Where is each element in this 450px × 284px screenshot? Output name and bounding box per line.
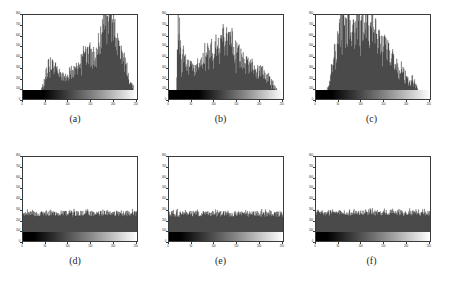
y-tick-label: 800 bbox=[16, 13, 20, 16]
x-tick-label: 200 bbox=[111, 104, 115, 107]
y-tick bbox=[313, 14, 315, 15]
y-tick-label: 700 bbox=[16, 165, 20, 168]
y-tick-label: 700 bbox=[16, 23, 20, 26]
panel-e: 0100200300400500600700800 05010015020025… bbox=[168, 156, 284, 242]
panel-a-x-axis: 050100150200250 bbox=[22, 100, 138, 112]
y-tick bbox=[166, 221, 168, 222]
x-tick-label: 250 bbox=[280, 246, 284, 249]
y-tick-label: 300 bbox=[16, 66, 20, 69]
figure-panel-grid: 0100200300400500600700800 05010015020025… bbox=[0, 0, 450, 284]
panel-e-y-axis: 0100200300400500600700800 bbox=[148, 156, 168, 242]
x-tick-label: 200 bbox=[404, 104, 408, 107]
x-tick-label: 200 bbox=[257, 246, 261, 249]
panel-e-caption: (e) bbox=[146, 255, 295, 266]
y-tick-label: 500 bbox=[162, 45, 166, 48]
y-tick-label: 0 bbox=[165, 241, 166, 244]
x-tick-label: 200 bbox=[257, 104, 261, 107]
panel-a-colorbar bbox=[23, 90, 137, 99]
y-tick-label: 800 bbox=[309, 13, 313, 16]
y-tick bbox=[166, 36, 168, 37]
panel-f-axes bbox=[315, 156, 431, 242]
x-tick-label: 100 bbox=[358, 246, 362, 249]
y-tick bbox=[20, 36, 22, 37]
y-tick bbox=[20, 221, 22, 222]
y-tick-label: 600 bbox=[309, 176, 313, 179]
y-tick bbox=[313, 178, 315, 179]
y-tick bbox=[313, 221, 315, 222]
panel-d-y-axis: 0100200300400500600700800 bbox=[2, 156, 22, 242]
y-tick bbox=[313, 231, 315, 232]
x-tick-label: 100 bbox=[65, 246, 69, 249]
y-tick-label: 200 bbox=[16, 77, 20, 80]
y-tick bbox=[166, 199, 168, 200]
panel-cell-e: 0100200300400500600700800 05010015020025… bbox=[150, 142, 295, 284]
y-tick-label: 200 bbox=[309, 77, 313, 80]
x-tick-label: 250 bbox=[427, 104, 431, 107]
y-tick bbox=[20, 25, 22, 26]
panel-b-y-axis: 0100200300400500600700800 bbox=[148, 14, 168, 100]
y-tick-label: 500 bbox=[162, 187, 166, 190]
x-tick-label: 0 bbox=[21, 104, 22, 107]
x-tick-label: 250 bbox=[134, 104, 138, 107]
y-tick-label: 100 bbox=[16, 88, 20, 91]
y-tick bbox=[166, 178, 168, 179]
x-tick-label: 0 bbox=[167, 246, 168, 249]
y-tick-label: 0 bbox=[312, 241, 313, 244]
panel-b-caption: (b) bbox=[146, 113, 295, 124]
y-tick bbox=[20, 178, 22, 179]
panel-cell-f: 0100200300400500600700800 05010015020025… bbox=[295, 142, 450, 284]
y-tick bbox=[313, 36, 315, 37]
panel-c-x-axis: 050100150200250 bbox=[315, 100, 431, 112]
y-tick-label: 800 bbox=[309, 155, 313, 158]
panel-a-plot bbox=[23, 15, 137, 99]
x-tick-label: 50 bbox=[43, 104, 46, 107]
y-tick-label: 100 bbox=[309, 230, 313, 233]
y-tick-label: 600 bbox=[309, 34, 313, 37]
y-tick bbox=[20, 57, 22, 58]
y-tick-label: 400 bbox=[309, 198, 313, 201]
y-tick-label: 500 bbox=[309, 187, 313, 190]
y-tick bbox=[166, 231, 168, 232]
panel-e-colorbar bbox=[169, 232, 283, 241]
panel-f: 0100200300400500600700800 05010015020025… bbox=[315, 156, 431, 242]
y-tick bbox=[313, 156, 315, 157]
x-tick-label: 50 bbox=[189, 246, 192, 249]
panel-a: 0100200300400500600700800 05010015020025… bbox=[22, 14, 138, 100]
y-tick bbox=[313, 167, 315, 168]
x-tick-label: 100 bbox=[211, 104, 215, 107]
y-tick-label: 300 bbox=[162, 66, 166, 69]
x-tick-label: 0 bbox=[167, 104, 168, 107]
y-tick bbox=[20, 89, 22, 90]
y-tick bbox=[313, 25, 315, 26]
panel-cell-a: 0100200300400500600700800 05010015020025… bbox=[0, 0, 150, 142]
y-tick-label: 400 bbox=[309, 56, 313, 59]
x-tick-label: 100 bbox=[358, 104, 362, 107]
y-tick bbox=[313, 79, 315, 80]
y-tick bbox=[20, 14, 22, 15]
y-tick-label: 700 bbox=[309, 165, 313, 168]
y-tick bbox=[20, 210, 22, 211]
panel-b-colorbar bbox=[169, 90, 283, 99]
y-tick bbox=[313, 46, 315, 47]
y-tick bbox=[313, 68, 315, 69]
y-tick-label: 400 bbox=[162, 198, 166, 201]
y-tick-label: 0 bbox=[19, 99, 20, 102]
x-tick-label: 0 bbox=[314, 246, 315, 249]
y-tick-label: 200 bbox=[16, 219, 20, 222]
y-tick-label: 100 bbox=[16, 230, 20, 233]
panel-f-caption: (f) bbox=[293, 255, 450, 266]
x-tick-label: 50 bbox=[189, 104, 192, 107]
y-tick-label: 200 bbox=[309, 219, 313, 222]
panel-f-x-axis: 050100150200250 bbox=[315, 242, 431, 254]
y-tick bbox=[166, 167, 168, 168]
y-tick-label: 300 bbox=[16, 208, 20, 211]
panel-a-axes bbox=[22, 14, 138, 100]
y-tick-label: 300 bbox=[162, 208, 166, 211]
panel-d-colorbar bbox=[23, 232, 137, 241]
x-tick-label: 50 bbox=[336, 246, 339, 249]
y-tick bbox=[313, 210, 315, 211]
y-tick bbox=[166, 68, 168, 69]
x-tick-label: 150 bbox=[234, 104, 238, 107]
y-tick bbox=[313, 89, 315, 90]
panel-a-caption: (a) bbox=[0, 113, 150, 124]
